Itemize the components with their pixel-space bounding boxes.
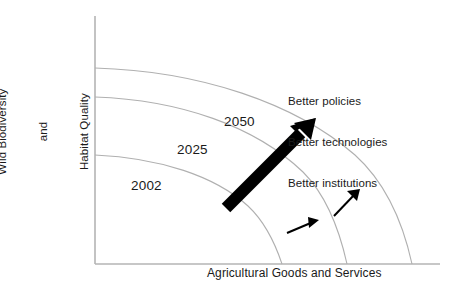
y-axis-label-line-2: and [37,62,51,202]
x-axis-label: Agricultural Goods and Services [207,266,382,280]
frontier-curve-2002 [95,155,282,264]
small-shift-arrow-1 [287,217,319,233]
callout-line-technologies: Better technologies [288,136,387,150]
curve-label-2025: 2025 [177,142,208,158]
y-axis-label-line-3: Habitat Quality [78,62,92,202]
y-axis-label-line-1: Wild Biodiversity [0,62,10,202]
callout-text-block: Better policies Better technologies Bett… [288,68,387,217]
diagram-canvas: 2002 2025 2050 Better policies Better te… [0,0,460,289]
y-axis-label: Wild Biodiversity and Habitat Quality [0,62,119,202]
curve-label-2002: 2002 [131,178,162,194]
callout-line-policies: Better policies [288,95,387,109]
callout-line-institutions: Better institutions [288,177,387,191]
curve-label-2050: 2050 [224,114,255,130]
